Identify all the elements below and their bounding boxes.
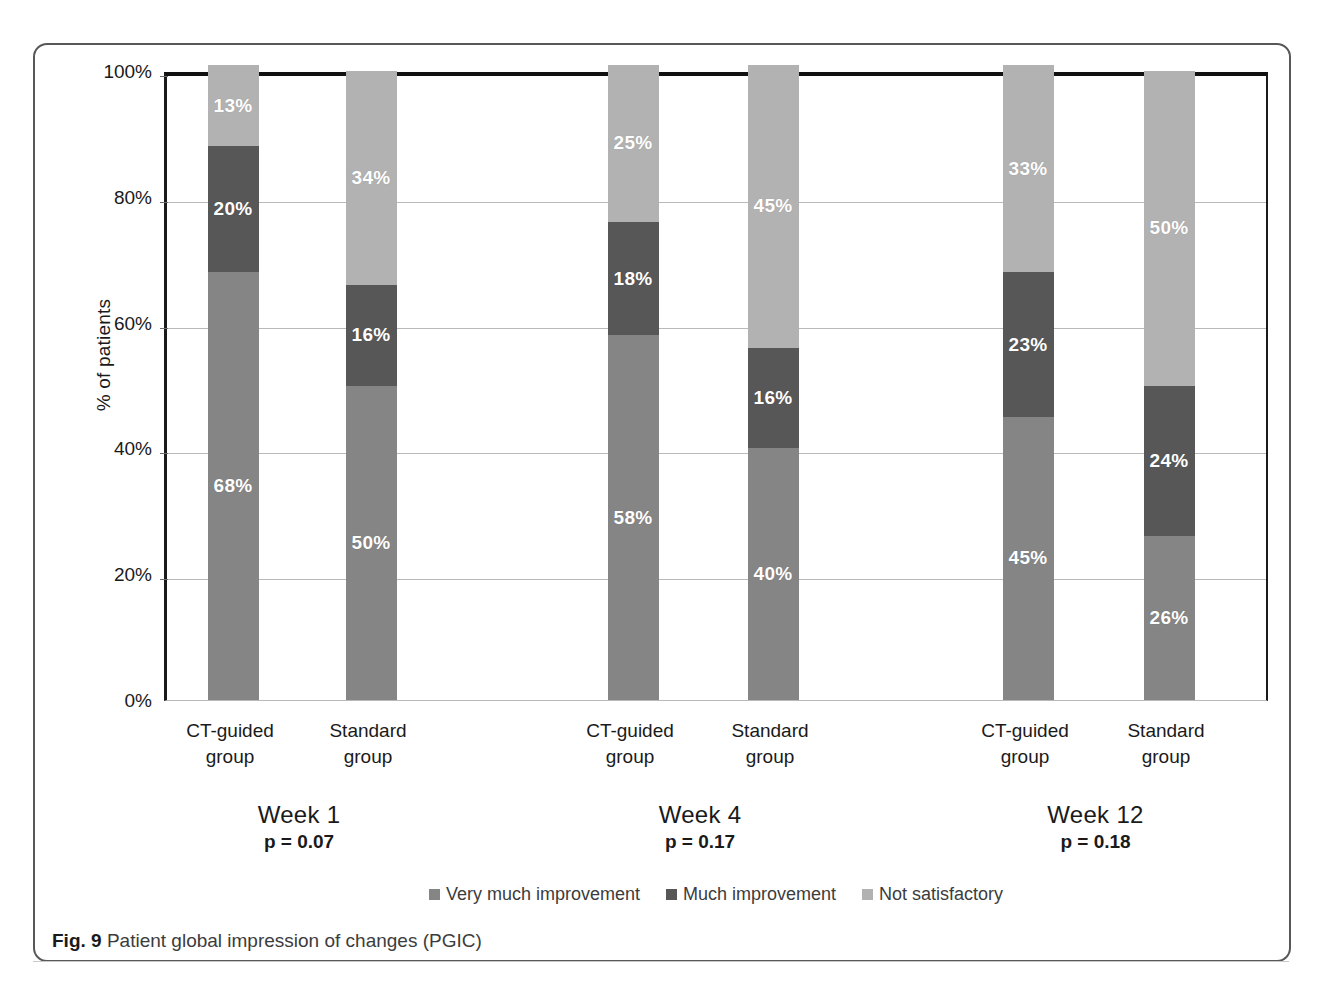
bar-column[interactable]: 50%24%26% xyxy=(1144,71,1195,700)
group-label-line-1: CT-guided xyxy=(550,718,710,744)
gridline xyxy=(167,579,1266,580)
bar-segment[interactable]: 16% xyxy=(346,285,397,386)
legend-swatch-icon xyxy=(666,889,677,900)
y-axis-tick-label: 100% xyxy=(74,62,152,81)
group-label-line-2: group xyxy=(550,744,710,770)
p-value-label: p = 0.17 xyxy=(570,831,830,853)
bar-segment-value-label: 16% xyxy=(352,324,391,346)
y-axis-tick-mark xyxy=(160,328,168,329)
bar-segment[interactable]: 50% xyxy=(1144,71,1195,386)
bar-segment-value-label: 20% xyxy=(214,198,253,220)
bar-segment-value-label: 50% xyxy=(1150,217,1189,239)
bar-segment[interactable]: 23% xyxy=(1003,272,1054,417)
legend-label: Not satisfactory xyxy=(879,884,1003,905)
bar-segment-value-label: 24% xyxy=(1150,450,1189,472)
bar-segment-value-label: 40% xyxy=(754,563,793,585)
bar-segment-value-label: 23% xyxy=(1009,334,1048,356)
bar-segment-value-label: 68% xyxy=(214,475,253,497)
legend-item[interactable]: Much improvement xyxy=(666,884,836,905)
legend-label: Very much improvement xyxy=(446,884,640,905)
x-axis-group-label: Standardgroup xyxy=(1086,718,1246,770)
p-value-label: p = 0.07 xyxy=(169,831,429,853)
group-label-line-1: Standard xyxy=(288,718,448,744)
gridline xyxy=(167,453,1266,454)
bar-segment-value-label: 34% xyxy=(352,167,391,189)
plot-area: 13%20%68%34%16%50%25%18%58%45%16%40%33%2… xyxy=(164,72,1268,701)
group-label-line-1: CT-guided xyxy=(150,718,310,744)
x-axis-group-label: CT-guidedgroup xyxy=(945,718,1105,770)
y-axis-title: % of patients xyxy=(93,285,123,425)
x-axis-week-label: Week 12p = 0.18 xyxy=(966,801,1226,853)
bar-segment[interactable]: 68% xyxy=(208,272,259,700)
bar-column[interactable]: 33%23%45% xyxy=(1003,65,1054,700)
bar-column[interactable]: 45%16%40% xyxy=(748,65,799,700)
bar-segment[interactable]: 18% xyxy=(608,222,659,335)
x-axis-group-label: Standardgroup xyxy=(690,718,850,770)
y-axis-tick-mark xyxy=(160,579,168,580)
group-label-line-1: CT-guided xyxy=(945,718,1105,744)
legend-swatch-icon xyxy=(862,889,873,900)
caption-divider xyxy=(33,961,1289,962)
bar-segment-value-label: 50% xyxy=(352,532,391,554)
bar-segment[interactable]: 33% xyxy=(1003,65,1054,273)
bar-segment-value-label: 58% xyxy=(614,507,653,529)
y-axis-tick-label: 20% xyxy=(74,565,152,584)
legend-item[interactable]: Not satisfactory xyxy=(862,884,1003,905)
y-axis-tick-label: 60% xyxy=(74,314,152,333)
bar-segment[interactable]: 13% xyxy=(208,65,259,147)
bar-segment[interactable]: 16% xyxy=(748,348,799,449)
bar-column[interactable]: 13%20%68% xyxy=(208,65,259,700)
bar-segment-value-label: 45% xyxy=(1009,547,1048,569)
bar-column[interactable]: 34%16%50% xyxy=(346,71,397,700)
group-label-line-1: Standard xyxy=(690,718,850,744)
legend-swatch-icon xyxy=(429,889,440,900)
x-axis-week-label: Week 4p = 0.17 xyxy=(570,801,830,853)
bar-segment-value-label: 33% xyxy=(1009,158,1048,180)
x-axis-week-label: Week 1p = 0.07 xyxy=(169,801,429,853)
x-axis-group-label: CT-guidedgroup xyxy=(550,718,710,770)
bar-segment[interactable]: 45% xyxy=(1003,417,1054,700)
bar-column[interactable]: 25%18%58% xyxy=(608,65,659,700)
bar-segment-value-label: 13% xyxy=(214,95,253,117)
chart-legend: Very much improvementMuch improvementNot… xyxy=(164,884,1268,905)
figure-caption-text: Patient global impression of changes (PG… xyxy=(107,930,482,951)
group-label-line-2: group xyxy=(1086,744,1246,770)
bar-segment-value-label: 16% xyxy=(754,387,793,409)
y-axis-tick-mark xyxy=(160,453,168,454)
figure-caption-prefix: Fig. 9 xyxy=(52,930,102,951)
group-label-line-2: group xyxy=(150,744,310,770)
group-label-line-2: group xyxy=(945,744,1105,770)
week-name: Week 4 xyxy=(570,801,830,829)
bar-segment-value-label: 26% xyxy=(1150,607,1189,629)
gridline xyxy=(167,202,1266,203)
bar-segment-value-label: 25% xyxy=(614,132,653,154)
legend-item[interactable]: Very much improvement xyxy=(429,884,640,905)
bar-segment[interactable]: 34% xyxy=(346,71,397,285)
x-axis-group-label: Standardgroup xyxy=(288,718,448,770)
bar-segment[interactable]: 26% xyxy=(1144,536,1195,700)
p-value-label: p = 0.18 xyxy=(966,831,1226,853)
bar-segment[interactable]: 58% xyxy=(608,335,659,700)
stacked-bar-chart: % of patients 0%20%40%60%80%100% 13%20%6… xyxy=(0,0,1326,930)
y-axis-tick-mark xyxy=(160,76,168,77)
figure-caption: Fig. 9 Patient global impression of chan… xyxy=(52,930,482,952)
bar-segment[interactable]: 45% xyxy=(748,65,799,348)
bar-segment[interactable]: 25% xyxy=(608,65,659,222)
gridline xyxy=(167,328,1266,329)
y-axis-tick-label: 80% xyxy=(74,188,152,207)
bar-segment[interactable]: 24% xyxy=(1144,386,1195,537)
bar-segment-value-label: 18% xyxy=(614,268,653,290)
bar-segment[interactable]: 40% xyxy=(748,448,799,700)
week-name: Week 12 xyxy=(966,801,1226,829)
y-axis-tick-label: 40% xyxy=(74,439,152,458)
y-axis-tick-label: 0% xyxy=(74,691,152,710)
x-axis-group-label: CT-guidedgroup xyxy=(150,718,310,770)
group-label-line-2: group xyxy=(288,744,448,770)
group-label-line-2: group xyxy=(690,744,850,770)
y-axis-tick-mark xyxy=(160,202,168,203)
bar-segment-value-label: 45% xyxy=(754,195,793,217)
bar-segment[interactable]: 50% xyxy=(346,386,397,701)
bar-segment[interactable]: 20% xyxy=(208,146,259,272)
week-name: Week 1 xyxy=(169,801,429,829)
legend-label: Much improvement xyxy=(683,884,836,905)
